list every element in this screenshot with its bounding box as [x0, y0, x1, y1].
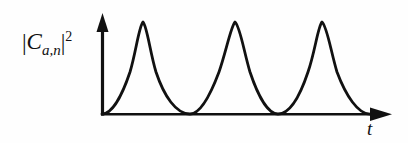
oscillation-curve: [102, 22, 370, 114]
plot-canvas: [0, 0, 408, 143]
y-axis-arrowhead-icon: [97, 13, 109, 32]
y-label-superscript: 2: [65, 29, 72, 44]
x-axis-arrowhead-icon: [370, 108, 392, 121]
x-axis-label: t: [367, 119, 372, 138]
rabi-oscillation-figure: |Ca,n|2 t: [0, 0, 408, 143]
y-label-symbol: C: [27, 29, 42, 54]
y-label-subscript: a,n: [42, 42, 61, 58]
y-axis-label: |Ca,n|2: [22, 30, 72, 58]
